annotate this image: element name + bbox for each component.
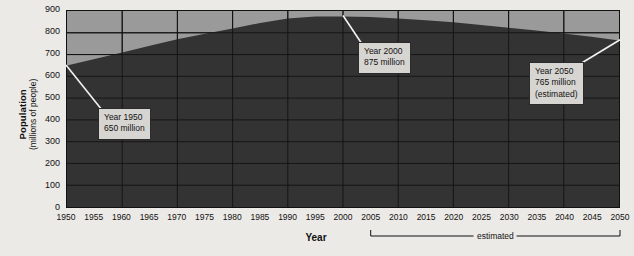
- callout-line: 765 million: [535, 77, 578, 88]
- callout-line: Year 1950: [104, 112, 145, 123]
- callout-line: 650 million: [104, 123, 145, 134]
- callout-leader: [580, 40, 620, 64]
- callout-year-1950: Year 1950650 million: [98, 108, 151, 140]
- population-area-chart: Population (millions of people) 01002003…: [0, 0, 634, 256]
- callout-year-2000: Year 2000875 million: [358, 42, 411, 74]
- callout-line: Year 2000: [364, 46, 405, 57]
- callout-line: (estimated): [535, 89, 578, 100]
- callout-year-2050: Year 2050765 million(estimated): [529, 62, 584, 105]
- callout-leader: [343, 16, 362, 45]
- callout-line: Year 2050: [535, 66, 578, 77]
- callout-line: 875 million: [364, 57, 405, 68]
- callout-leader-lines: [0, 0, 634, 256]
- callout-leader: [66, 65, 102, 110]
